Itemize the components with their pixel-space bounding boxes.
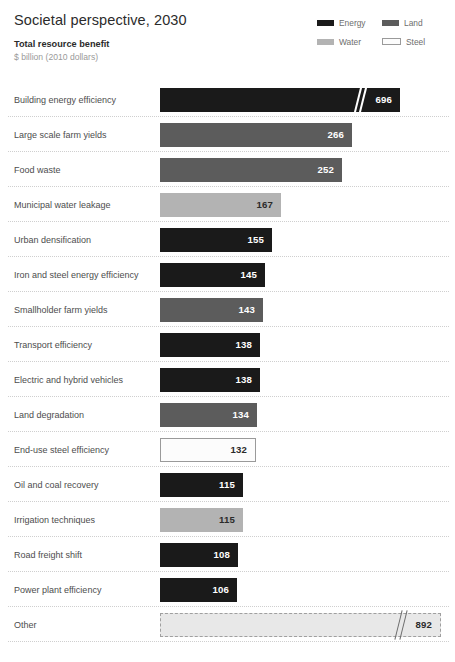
chart-row: Power plant efficiency106	[0, 572, 455, 607]
legend-item-water[interactable]: Water	[317, 32, 382, 51]
chart-row: Smallholder farm yields143	[0, 292, 455, 327]
bar-category-label: Irrigation techniques	[14, 514, 95, 525]
bar-land[interactable]: 266	[160, 123, 352, 147]
chart-row: Electric and hybrid vehicles138	[0, 362, 455, 397]
chart-row: Road freight shift108	[0, 537, 455, 572]
bar-energy[interactable]: 138	[160, 368, 260, 392]
bar-category-label: Electric and hybrid vehicles	[14, 374, 123, 385]
bar-land[interactable]: 143	[160, 298, 263, 322]
legend-swatch-water-icon	[317, 39, 334, 45]
bar-energy[interactable]: 138	[160, 333, 260, 357]
chart-legend: EnergyLandWaterSteel	[317, 13, 447, 51]
chart-row: Urban densification155	[0, 222, 455, 257]
bar-value-label: 115	[219, 480, 243, 490]
chart-row: Municipal water leakage167	[0, 187, 455, 222]
legend-swatch-steel-icon	[382, 38, 401, 45]
bar-energy[interactable]: 696	[160, 88, 400, 112]
bar-category-label: Food waste	[14, 164, 61, 175]
chart-row: Transport efficiency138	[0, 327, 455, 362]
bar-value-label: 134	[232, 410, 257, 420]
bar-category-label: End-use steel efficiency	[14, 444, 109, 455]
bar-category-label: Urban densification	[14, 234, 91, 245]
bar-category-label: Transport efficiency	[14, 339, 92, 350]
legend-label: Water	[339, 37, 361, 47]
bar-category-label: Power plant efficiency	[14, 584, 101, 595]
chart-row: Oil and coal recovery115	[0, 467, 455, 502]
row-separator	[8, 641, 449, 642]
legend-label: Steel	[406, 37, 425, 47]
chart-row: Other892	[0, 607, 455, 642]
bar-energy[interactable]: 115	[160, 473, 243, 497]
chart-row: Large scale farm yields266	[0, 117, 455, 152]
bar-category-label: Large scale farm yields	[14, 129, 107, 140]
bar-water[interactable]: 115	[160, 508, 243, 532]
bar-value-label: 115	[219, 515, 243, 525]
chart-row: Land degradation134	[0, 397, 455, 432]
chart-row: Iron and steel energy efficiency145	[0, 257, 455, 292]
bar-category-label: Iron and steel energy efficiency	[14, 269, 138, 280]
bar-category-label: Oil and coal recovery	[14, 479, 99, 490]
chart-row: End-use steel efficiency132	[0, 432, 455, 467]
bar-category-label: Land degradation	[14, 409, 84, 420]
legend-label: Energy	[339, 18, 366, 28]
legend-swatch-land-icon	[382, 20, 399, 26]
chart-row: Food waste252	[0, 152, 455, 187]
chart-container: Societal perspective, 2030 Total resourc…	[0, 0, 455, 662]
bar-energy[interactable]: 145	[160, 263, 265, 287]
legend-item-energy[interactable]: Energy	[317, 13, 382, 32]
bar-value-label: 106	[212, 585, 237, 595]
bar-value-label: 155	[247, 235, 272, 245]
page-title: Societal perspective, 2030	[14, 12, 314, 29]
bar-rows: Building energy efficiency696Large scale…	[0, 82, 455, 642]
bar-value-label: 145	[240, 270, 265, 280]
bar-energy[interactable]: 108	[160, 543, 238, 567]
bar-steel[interactable]: 132	[160, 438, 256, 462]
bar-category-label: Road freight shift	[14, 549, 82, 560]
bar-category-label: Municipal water leakage	[14, 199, 111, 210]
chart-units-label: $ billion (2010 dollars)	[14, 51, 314, 63]
chart-header: Societal perspective, 2030 Total resourc…	[14, 12, 314, 63]
bar-other[interactable]: 892	[160, 613, 441, 637]
chart-row: Building energy efficiency696	[0, 82, 455, 117]
bar-land[interactable]: 252	[160, 158, 342, 182]
bar-category-label: Other	[14, 619, 37, 630]
bar-energy[interactable]: 106	[160, 578, 237, 602]
bar-value-label: 138	[235, 340, 260, 350]
bar-category-label: Building energy efficiency	[14, 94, 116, 105]
bar-value-label: 696	[375, 95, 400, 105]
bar-value-label: 132	[230, 445, 255, 455]
legend-item-land[interactable]: Land	[382, 13, 447, 32]
legend-swatch-energy-icon	[317, 20, 334, 26]
legend-item-steel[interactable]: Steel	[382, 32, 447, 51]
chart-subtitle: Total resource benefit	[14, 38, 314, 50]
bar-value-label: 167	[256, 200, 281, 210]
bar-value-label: 892	[415, 620, 440, 630]
bar-value-label: 108	[213, 550, 238, 560]
bar-land[interactable]: 134	[160, 403, 257, 427]
bar-value-label: 138	[235, 375, 260, 385]
bar-water[interactable]: 167	[160, 193, 281, 217]
bar-value-label: 266	[327, 130, 352, 140]
bar-category-label: Smallholder farm yields	[14, 304, 108, 315]
bar-energy[interactable]: 155	[160, 228, 272, 252]
bar-value-label: 252	[317, 165, 342, 175]
legend-label: Land	[404, 18, 423, 28]
bar-value-label: 143	[238, 305, 263, 315]
chart-row: Irrigation techniques115	[0, 502, 455, 537]
